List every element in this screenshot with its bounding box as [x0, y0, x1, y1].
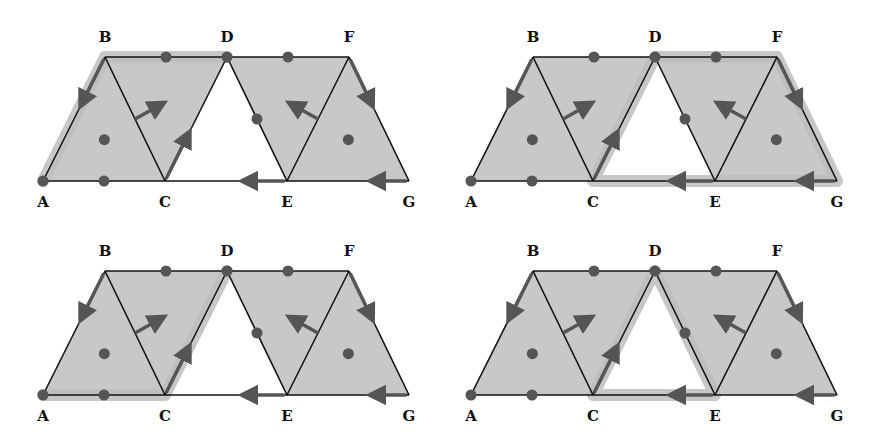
vertex-label-d: D — [648, 242, 661, 260]
vertex-label-c: C — [587, 193, 599, 211]
vertex-label-a: A — [464, 193, 477, 211]
point-dot — [650, 52, 661, 63]
vertex-label-b: B — [527, 242, 540, 260]
vertex-label-c: C — [587, 407, 599, 425]
point-dot — [343, 134, 354, 145]
vertex-label-f: F — [344, 242, 355, 260]
point-dot — [99, 348, 110, 359]
vertex-label-a: A — [36, 193, 49, 211]
point-dot — [99, 390, 110, 401]
point-dot — [771, 348, 782, 359]
point-dot — [589, 266, 600, 277]
vertex-label-f: F — [772, 242, 783, 260]
vertex-label-g: G — [831, 193, 844, 211]
vertex-label-f: F — [772, 28, 783, 46]
vertex-label-e: E — [709, 193, 720, 211]
vertex-label-e: E — [281, 193, 292, 211]
point-dot — [38, 176, 49, 187]
point-dot — [99, 176, 110, 187]
panel-bottom-right: ABCDEFG — [464, 242, 843, 425]
point-dot — [466, 176, 477, 187]
point-dot — [711, 52, 722, 63]
vertex-label-a: A — [464, 407, 477, 425]
point-dot — [680, 114, 691, 125]
panel-top-left: ABCDEFG — [36, 28, 415, 211]
point-dot — [161, 266, 172, 277]
vertex-label-a: A — [36, 407, 49, 425]
point-dot — [771, 134, 782, 145]
point-dot — [222, 52, 233, 63]
vertex-label-b: B — [99, 28, 112, 46]
vertex-label-g: G — [831, 407, 844, 425]
vertex-label-d: D — [220, 242, 233, 260]
point-dot — [650, 266, 661, 277]
vertex-label-b: B — [527, 28, 540, 46]
vertex-label-b: B — [99, 242, 112, 260]
vertex-label-g: G — [403, 407, 416, 425]
point-dot — [527, 176, 538, 187]
panel-top-right: ABCDEFG — [464, 28, 843, 211]
point-dot — [589, 52, 600, 63]
vertex-label-g: G — [403, 193, 416, 211]
point-dot — [161, 52, 172, 63]
triangle-strip-diagram: ABCDEFGABCDEFGABCDEFGABCDEFG — [0, 0, 875, 442]
point-dot — [283, 52, 294, 63]
point-dot — [527, 390, 538, 401]
vertex-label-d: D — [648, 28, 661, 46]
point-dot — [343, 348, 354, 359]
point-dot — [38, 390, 49, 401]
point-dot — [252, 328, 263, 339]
point-dot — [99, 134, 110, 145]
vertex-label-d: D — [220, 28, 233, 46]
vertex-label-c: C — [159, 193, 171, 211]
point-dot — [680, 328, 691, 339]
point-dot — [711, 266, 722, 277]
point-dot — [222, 266, 233, 277]
vertex-label-e: E — [281, 407, 292, 425]
vertex-label-c: C — [159, 407, 171, 425]
panel-bottom-left: ABCDEFG — [36, 242, 415, 425]
vertex-label-e: E — [709, 407, 720, 425]
vertex-label-f: F — [344, 28, 355, 46]
point-dot — [283, 266, 294, 277]
point-dot — [527, 134, 538, 145]
point-dot — [527, 348, 538, 359]
point-dot — [466, 390, 477, 401]
point-dot — [252, 114, 263, 125]
